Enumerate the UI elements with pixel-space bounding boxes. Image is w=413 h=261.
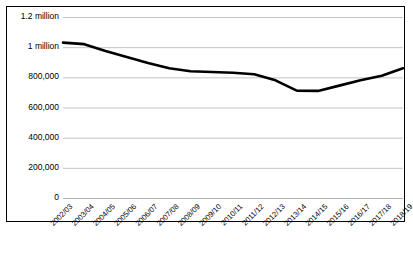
- chart-x-axis: 2002/032003/042004/052005/062006/072007/…: [0, 0, 413, 261]
- chart-container: 0200,000400,000600,000800,0001 million1.…: [0, 0, 413, 261]
